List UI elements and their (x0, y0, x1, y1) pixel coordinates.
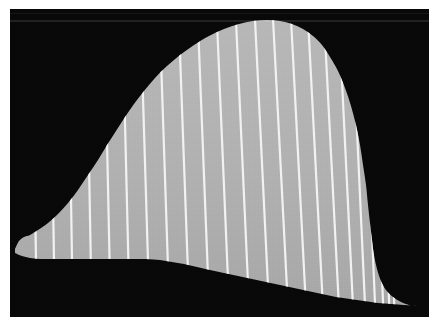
figure-root (0, 0, 440, 333)
plot-frame (10, 9, 429, 317)
plot-canvas (10, 9, 429, 317)
